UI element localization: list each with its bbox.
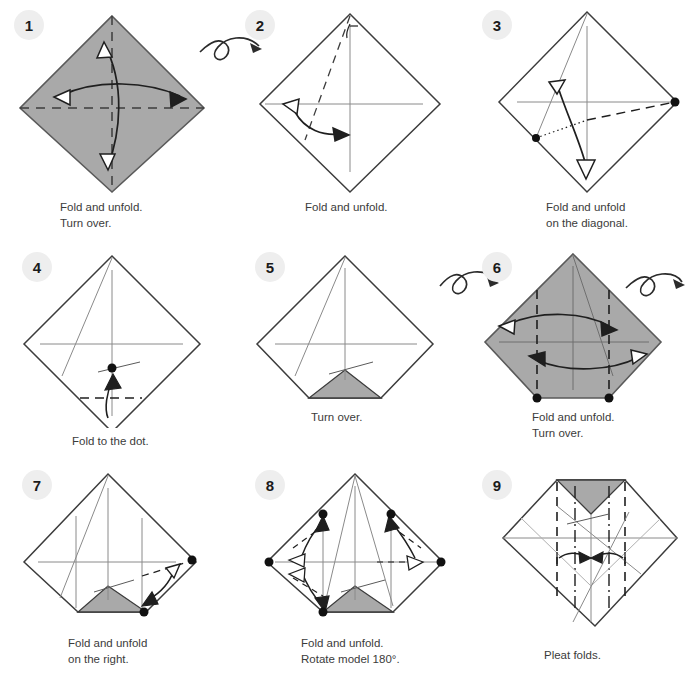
step-caption-3: Fold and unfold on the diagonal.: [546, 200, 628, 231]
reference-dot: [605, 394, 614, 403]
step-panel-5: 5 Turn over.: [237, 248, 466, 428]
reference-dot: [533, 394, 542, 403]
step-diagram-3: [460, 4, 687, 194]
step-diagram-5: [237, 248, 466, 428]
step-panel-3: 3 Fold and unfold on the diagonal.: [460, 4, 687, 194]
step-caption-4: Fold to the dot.: [72, 434, 149, 450]
reference-dot: [265, 558, 274, 567]
step-panel-2: 2 Fold and unfold.: [237, 4, 466, 194]
step-caption-2: Fold and unfold.: [305, 200, 387, 216]
step-caption-5: Turn over.: [311, 410, 362, 426]
step-panel-8: 8: [237, 466, 466, 636]
step-caption-6: Fold and unfold. Turn over.: [532, 410, 614, 441]
step-diagram-7: [8, 466, 237, 636]
reference-dot: [140, 608, 149, 617]
step-diagram-2: [237, 4, 466, 194]
step-diagram-9: [460, 466, 687, 646]
step-caption-8: Fold and unfold. Rotate model 180°.: [301, 636, 400, 667]
step-caption-9: Pleat folds.: [544, 648, 601, 664]
step-caption-7: Fold and unfold on the right.: [68, 636, 147, 667]
reference-dot: [319, 510, 328, 519]
reference-dot: [387, 510, 396, 519]
step-panel-9: 9: [460, 466, 687, 646]
reference-dot: [319, 608, 328, 617]
reference-dot: [437, 558, 446, 567]
turn-over-icon-step6: [624, 264, 687, 314]
reference-dot: [188, 556, 197, 565]
step-panel-7: 7 Fold and unfold on the right.: [8, 466, 237, 636]
instruction-grid: 1 Fold and unfold. Turn over. 2: [0, 0, 687, 678]
reference-dot: [671, 98, 680, 107]
reference-dot: [108, 364, 117, 373]
reference-dot: [532, 134, 540, 142]
step-diagram-8: [237, 466, 466, 636]
step-panel-4: 4 Fold to the dot.: [8, 248, 237, 428]
step-diagram-4: [8, 248, 237, 428]
step-caption-1: Fold and unfold. Turn over.: [60, 200, 142, 231]
